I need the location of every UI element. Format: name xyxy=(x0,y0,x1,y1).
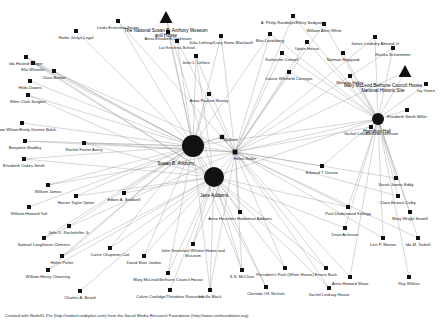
graph-edge xyxy=(235,152,398,196)
graph-edge xyxy=(168,177,214,273)
graph-node-woodrow-wilson-emily-greene-balch[interactable] xyxy=(20,121,24,125)
graph-node-vachel-lim-adelaide-johnson[interactable] xyxy=(369,125,373,129)
graph-node-james-lindsley-almond-jr[interactable] xyxy=(373,35,377,39)
graph-node-lucille-black[interactable] xyxy=(208,288,212,292)
graph-node-charles-a-beard[interactable] xyxy=(78,289,82,293)
graph-node-ss-mcclure[interactable] xyxy=(240,268,244,272)
graph-edge xyxy=(193,34,270,146)
graph-node-ida-m-tarbell[interactable] xyxy=(416,236,420,240)
graph-edge xyxy=(28,95,193,146)
graph-node-presidents-park-white-house[interactable] xyxy=(283,266,287,270)
graph-svg xyxy=(0,0,444,309)
graph-node-david-starr-jordan[interactable] xyxy=(142,254,146,258)
graph-edge xyxy=(44,152,235,238)
graph-node-hattie-joslyn-legal[interactable] xyxy=(74,29,78,33)
graph-node-edward-t-devine[interactable] xyxy=(320,164,324,168)
graph-node-jane-addams[interactable] xyxy=(204,167,224,187)
graph-node-dean-acheson[interactable] xyxy=(343,226,347,230)
graph-node-elizabeth-oakes-smith[interactable] xyxy=(22,157,26,161)
graph-node-benjamin-bradley[interactable] xyxy=(23,139,27,143)
graph-node-upton-house[interactable] xyxy=(305,40,309,44)
graph-node-vachel-lindsay-house[interactable] xyxy=(327,286,331,290)
graph-node-julia-lathrop-lucy-stone-blackwell[interactable] xyxy=(219,34,223,38)
graph-edge xyxy=(193,56,196,146)
graph-node-clara-bewick-colby[interactable] xyxy=(396,194,400,198)
graph-node-elizabeth-smith-miller[interactable] xyxy=(405,108,409,112)
graph-node-clara-barton[interactable] xyxy=(52,69,56,73)
graph-node-ellen-clark-sargent[interactable] xyxy=(26,93,30,97)
graph-node-samuel-langhorne-clemens[interactable] xyxy=(42,236,46,240)
graph-node-harriet-taylor-upton[interactable] xyxy=(74,194,78,198)
graph-node-linda-ernestine-sector[interactable] xyxy=(116,19,120,23)
graph-node-carrie-chapman-catt[interactable] xyxy=(108,246,112,250)
graph-node-marietta-holley[interactable] xyxy=(348,74,352,78)
graph-node-anna-howard-shaw[interactable] xyxy=(348,275,352,279)
graph-edge xyxy=(69,146,193,226)
graph-node-a-philip-randolph-ellery-sedgwick[interactable] xyxy=(291,14,295,18)
graph-edge xyxy=(235,53,282,152)
graph-node-ivy-green[interactable] xyxy=(424,82,428,86)
graph-node-norman-hapgood[interactable] xyxy=(341,51,345,55)
graph-node-susan-b-anthony[interactable] xyxy=(182,135,204,157)
graph-node-john-d-rockefeller-jr[interactable] xyxy=(67,224,71,228)
graph-node-lat-kreshna-school[interactable] xyxy=(175,39,179,43)
graph-node-anna-hostetter-haldeman-addams[interactable] xyxy=(238,210,242,214)
graph-edge xyxy=(235,152,418,238)
graph-node-bullock[interactable] xyxy=(220,135,224,139)
graph-edge xyxy=(124,177,214,193)
graph-node-rachel-foster-avery[interactable] xyxy=(82,141,86,145)
graph-node-hamilton-hall[interactable] xyxy=(372,113,384,125)
graph-node-mary-mcleod-bethune-house[interactable] xyxy=(166,271,170,275)
graph-node-louise-whitfield-carnegie[interactable] xyxy=(287,70,291,74)
graph-node-william-henry-channing[interactable] xyxy=(46,268,50,272)
graph-edge xyxy=(235,152,396,178)
graph-edge xyxy=(84,143,235,152)
graph-node-sarah-james-eddy[interactable] xyxy=(394,176,398,180)
graph-edge xyxy=(282,53,378,119)
graph-node-william-howard-taft[interactable] xyxy=(27,205,31,209)
graph-node-john-greenleaf-whittier-home[interactable] xyxy=(191,242,195,246)
graph-node-william-james[interactable] xyxy=(46,183,50,187)
graph-edge xyxy=(350,76,378,119)
graph-node-helen-potter[interactable] xyxy=(60,254,64,258)
graph-edge xyxy=(235,24,324,152)
graph-edge xyxy=(48,146,193,270)
graph-edge xyxy=(22,123,193,146)
graph-node-edwin-a-studwell[interactable] xyxy=(122,191,126,195)
graph-node-calvin-coolidge-theodore-roosevelt[interactable] xyxy=(168,288,172,292)
graph-node-anna-pauline-murray[interactable] xyxy=(207,92,211,96)
graph-node-mary-mcleod-bethune-council-house[interactable] xyxy=(399,65,412,77)
graph-node-mary-wright-sewell[interactable] xyxy=(408,210,412,214)
graph-edge xyxy=(343,53,378,119)
graph-edge xyxy=(54,71,193,146)
graph-edge xyxy=(193,119,378,146)
network-graph-canvas: Susan B. AnthonyJane AddamsHelen KellerB… xyxy=(0,0,444,309)
graph-node-rosika-schwimmer[interactable] xyxy=(391,46,395,50)
attribution-footer: Created with NodeXL Pro (http://nodexl.c… xyxy=(5,313,248,318)
graph-node-william-allen-white[interactable] xyxy=(322,22,326,26)
graph-edge xyxy=(235,119,378,152)
graph-edge xyxy=(235,42,307,152)
graph-node-national-susan-b-anthony-museum[interactable] xyxy=(160,11,173,23)
graph-node-clarinda-ih-nichols[interactable] xyxy=(264,285,268,289)
graph-node-katharine-connell[interactable] xyxy=(280,51,284,55)
graph-node-john-l-leflore[interactable] xyxy=(194,54,198,58)
graph-node-hilda-dawes[interactable] xyxy=(28,79,32,83)
graph-edge xyxy=(44,146,193,238)
graph-edge xyxy=(378,84,426,119)
graph-edge xyxy=(378,119,396,178)
graph-node-roy-wilkins[interactable] xyxy=(407,275,411,279)
graph-node-max-landsberg[interactable] xyxy=(268,32,272,36)
graph-node-levi-p-morton[interactable] xyxy=(381,236,385,240)
graph-node-helen-keller[interactable] xyxy=(233,150,238,155)
graph-node-ernest-buck[interactable] xyxy=(324,266,328,270)
graph-edge xyxy=(235,127,371,152)
graph-edge xyxy=(48,146,193,185)
graph-edge xyxy=(214,177,329,288)
graph-node-ida-husted-harper[interactable] xyxy=(24,55,28,59)
graph-edge xyxy=(235,34,270,152)
graph-node-paul-underwood-kellogg[interactable] xyxy=(346,205,350,209)
graph-node-anna-elizabeth-dickinson[interactable] xyxy=(166,30,170,34)
graph-node-ella-wheeler[interactable] xyxy=(31,61,35,65)
graph-edge xyxy=(235,16,293,152)
